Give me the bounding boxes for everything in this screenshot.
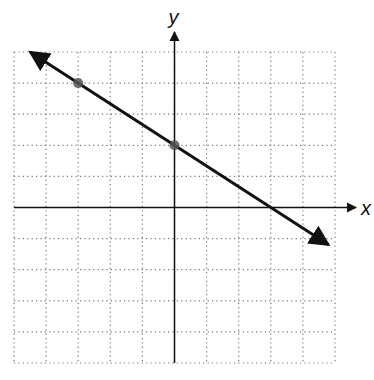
plotted-point bbox=[170, 140, 180, 150]
plotted-point bbox=[73, 78, 83, 88]
coordinate-plane: x y bbox=[0, 0, 374, 380]
y-axis-label: y bbox=[167, 6, 180, 28]
x-axis-label: x bbox=[360, 197, 372, 219]
